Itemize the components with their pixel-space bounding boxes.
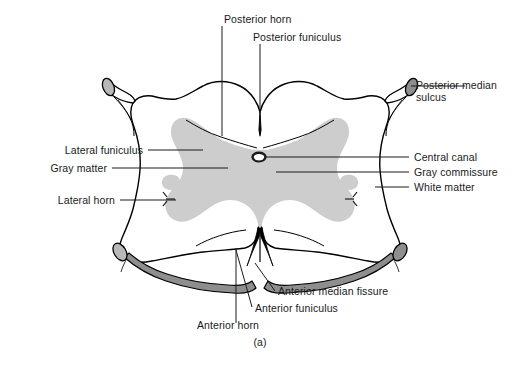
label-anterior-funiculus: Anterior funiculus: [255, 302, 338, 315]
label-posterior-median-sulcus-line2: sulcus: [416, 91, 446, 104]
spinal-cord-figure: Posterior horn Posterior funiculus Poste…: [0, 0, 520, 369]
label-lateral-funiculus: Lateral funiculus: [10, 144, 143, 157]
label-anterior-horn: Anterior horn: [197, 319, 259, 332]
label-central-canal: Central canal: [414, 151, 477, 164]
label-anterior-median-fissure: Anterior median fissure: [278, 285, 388, 298]
dorsal-root-left: [100, 77, 135, 136]
label-posterior-funiculus: Posterior funiculus: [253, 31, 341, 44]
label-white-matter: White matter: [414, 181, 475, 194]
label-gray-commissure: Gray commissure: [414, 166, 498, 179]
label-posterior-horn: Posterior horn: [224, 13, 291, 26]
label-posterior-median-sulcus-line1: Posterior median: [416, 79, 497, 92]
figure-caption: (a): [0, 336, 520, 348]
label-gray-matter: Gray matter: [10, 162, 107, 175]
central-canal: [253, 153, 266, 161]
label-lateral-horn: Lateral horn: [10, 194, 115, 207]
